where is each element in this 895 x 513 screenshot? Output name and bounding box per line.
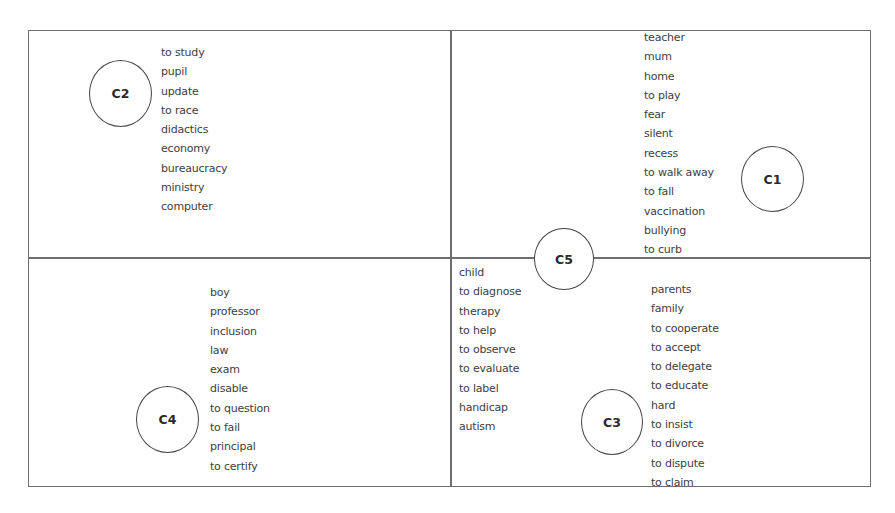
word-item: silent xyxy=(644,124,714,143)
cluster-c2-word-list: to study pupil update to race didactics … xyxy=(161,43,227,217)
word-item: to claim xyxy=(651,473,719,492)
word-item: to accept xyxy=(651,338,719,357)
word-item: to play xyxy=(644,86,714,105)
word-item: to race xyxy=(161,101,227,120)
word-item: fear xyxy=(644,105,714,124)
word-item: to cooperate xyxy=(651,319,719,338)
word-item: to fall xyxy=(644,182,714,201)
word-item: to delegate xyxy=(651,357,719,376)
vertical-divider xyxy=(450,30,452,487)
cluster-c1-circle: C1 xyxy=(741,146,804,212)
word-item: to study xyxy=(161,43,227,62)
word-item: to divorce xyxy=(651,434,719,453)
word-item: bureaucracy xyxy=(161,159,227,178)
cluster-c3-word-list: parents family to cooperate to accept to… xyxy=(651,280,719,492)
word-item: to certify xyxy=(210,457,270,476)
word-item: computer xyxy=(161,197,227,216)
word-item: mum xyxy=(644,47,714,66)
word-item: economy xyxy=(161,139,227,158)
cluster-c1-word-list: teacher mum home to play fear silent rec… xyxy=(644,28,714,260)
word-item: to observe xyxy=(459,340,521,359)
cluster-c4-word-list: boy professor inclusion law exam disable… xyxy=(210,283,270,476)
word-item: hard xyxy=(651,396,719,415)
word-item: family xyxy=(651,299,719,318)
word-item: exam xyxy=(210,360,270,379)
cluster-c3-circle: C3 xyxy=(581,389,643,455)
word-item: teacher xyxy=(644,28,714,47)
horizontal-divider xyxy=(28,257,871,259)
word-item: parents xyxy=(651,280,719,299)
word-item: vaccination xyxy=(644,202,714,221)
word-item: to evaluate xyxy=(459,359,521,378)
word-item: bullying xyxy=(644,221,714,240)
word-item: pupil xyxy=(161,62,227,81)
word-item: boy xyxy=(210,283,270,302)
word-item: to help xyxy=(459,321,521,340)
word-item: home xyxy=(644,67,714,86)
cluster-c4-circle: C4 xyxy=(136,386,199,453)
word-item: to question xyxy=(210,399,270,418)
word-item: to educate xyxy=(651,376,719,395)
word-item: didactics xyxy=(161,120,227,139)
word-item: to curb xyxy=(644,240,714,259)
word-item: child xyxy=(459,263,521,282)
word-item: to fail xyxy=(210,418,270,437)
word-item: to insist xyxy=(651,415,719,434)
word-item: disable xyxy=(210,379,270,398)
word-item: to walk away xyxy=(644,163,714,182)
word-item: to dispute xyxy=(651,454,719,473)
word-item: principal xyxy=(210,437,270,456)
cluster-c5-word-list: child to diagnose therapy to help to obs… xyxy=(459,263,521,437)
word-item: handicap xyxy=(459,398,521,417)
word-item: autism xyxy=(459,417,521,436)
cluster-c5-circle: C5 xyxy=(534,228,594,290)
word-item: recess xyxy=(644,144,714,163)
word-item: professor xyxy=(210,302,270,321)
cluster-c2-circle: C2 xyxy=(89,60,152,127)
word-item: to label xyxy=(459,379,521,398)
word-item: inclusion xyxy=(210,322,270,341)
word-item: therapy xyxy=(459,302,521,321)
word-item: update xyxy=(161,82,227,101)
word-item: to diagnose xyxy=(459,282,521,301)
word-item: ministry xyxy=(161,178,227,197)
word-item: law xyxy=(210,341,270,360)
